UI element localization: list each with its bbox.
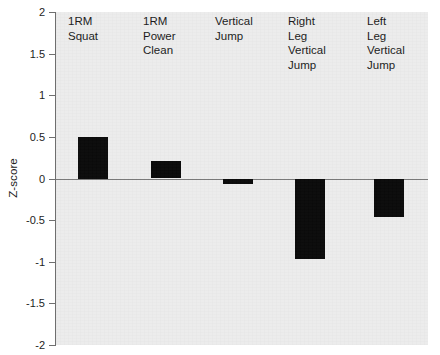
y-axis-tick-label: 0.5 (1, 131, 45, 143)
y-axis-tick (49, 220, 55, 221)
y-axis-tick (49, 95, 55, 96)
y-axis-tick (49, 303, 55, 304)
bar (374, 179, 404, 217)
y-axis-tick-label: -1 (1, 256, 45, 268)
category-label: 1RM Squat (68, 14, 98, 43)
bar (151, 161, 181, 178)
category-label: Left Leg Vertical Jump (367, 14, 405, 72)
y-axis-tick-label: 0 (1, 173, 45, 185)
y-axis-tick (49, 262, 55, 263)
y-axis-tick-label: -2 (1, 339, 45, 351)
y-axis-tick (49, 54, 55, 55)
y-axis-tick (49, 345, 55, 346)
y-axis-tick (49, 12, 55, 13)
y-axis-tick-label: 2 (1, 6, 45, 18)
category-label: Vertical Jump (215, 14, 253, 43)
y-axis-tick-label: 1 (1, 89, 45, 101)
y-axis-tick-label: 1.5 (1, 48, 45, 60)
bar-chart-figure: Z-score 21.510.50-0.5-1-1.5-2 1RM Squat1… (0, 0, 440, 355)
y-axis-tick-label: -1.5 (1, 297, 45, 309)
bar (295, 179, 325, 260)
bar (78, 137, 108, 179)
bar (223, 179, 253, 185)
category-label: Right Leg Vertical Jump (288, 14, 326, 72)
y-axis-tick (49, 137, 55, 138)
y-axis-tick (49, 179, 55, 180)
category-label: 1RM Power Clean (143, 14, 176, 58)
y-axis-tick-label: -0.5 (1, 214, 45, 226)
